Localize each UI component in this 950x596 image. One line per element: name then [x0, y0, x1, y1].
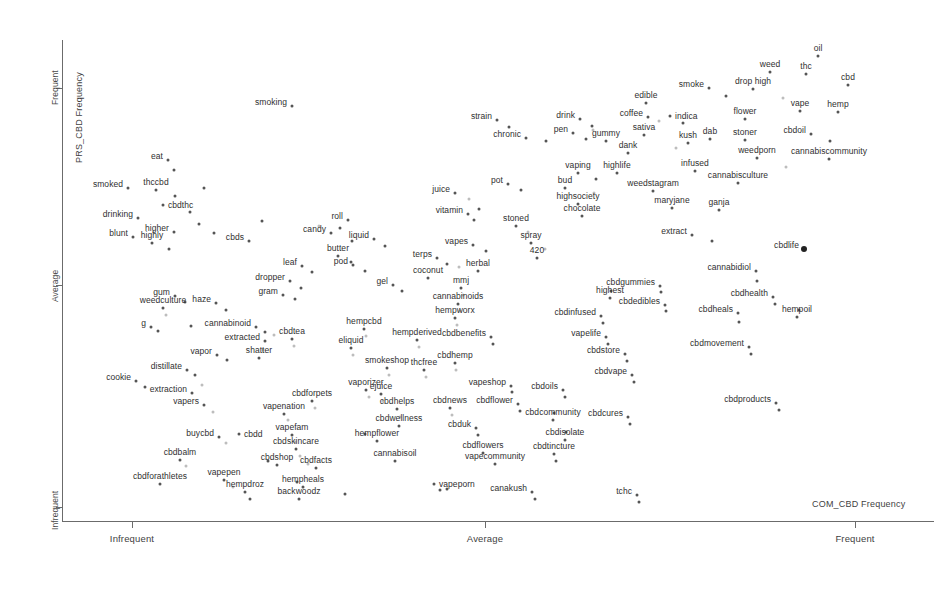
scatter-point	[774, 303, 777, 306]
scatter-point	[737, 312, 740, 315]
point-label: chronic	[493, 129, 521, 139]
point-label: highest	[596, 285, 624, 295]
point-label: hempheals	[282, 474, 324, 484]
point-label: cbdflowers	[462, 440, 503, 450]
scatter-point	[510, 385, 513, 388]
scatter-point	[173, 169, 176, 172]
scatter-point	[293, 345, 296, 348]
point-label: coffee	[620, 108, 643, 118]
point-label: cbd	[841, 72, 855, 82]
scatter-point	[744, 139, 747, 142]
scatter-point	[694, 170, 697, 173]
point-label: ejuice	[370, 381, 393, 391]
point-label: bud	[558, 175, 572, 185]
scatter-point	[659, 285, 662, 288]
point-label: cbdproducts	[724, 394, 771, 404]
point-label: kush	[679, 130, 697, 140]
scatter-point	[300, 287, 303, 290]
scatter-point	[314, 407, 317, 410]
scatter-point	[425, 376, 428, 379]
scatter-point	[817, 55, 820, 58]
scatter-point	[315, 467, 318, 470]
point-label: cbdstore	[587, 345, 620, 355]
scatter-point	[388, 374, 391, 377]
scatter-point	[311, 271, 314, 274]
scatter-point	[511, 391, 514, 394]
scatter-point	[492, 343, 495, 346]
scatter-point	[216, 354, 219, 357]
scatter-point	[496, 119, 499, 122]
y-axis-line	[62, 40, 63, 522]
scatter-point	[750, 353, 753, 356]
point-label: cbds	[226, 232, 244, 242]
point-label: cbdforpets	[292, 388, 332, 398]
scatter-point	[473, 219, 476, 222]
point-label: leaf	[283, 257, 297, 267]
point-label: vitamin	[436, 205, 463, 215]
scatter-point	[255, 326, 258, 329]
point-label: indica	[675, 111, 698, 121]
point-label: cbdthc	[168, 200, 193, 210]
point-label: weedporn	[738, 145, 776, 155]
scatter-point	[664, 304, 667, 307]
scatter-point	[137, 217, 140, 220]
scatter-point	[364, 270, 367, 273]
scatter-point	[525, 137, 528, 140]
scatter-point	[458, 266, 461, 269]
scatter-point	[212, 411, 215, 414]
point-label: cbdtea	[279, 326, 305, 336]
point-label: candy	[303, 224, 326, 234]
scatter-point	[805, 73, 808, 76]
scatter-point	[829, 140, 832, 143]
scatter-point	[423, 369, 426, 372]
point-label: gel	[377, 276, 389, 286]
scatter-point	[515, 225, 518, 228]
scatter-point	[638, 501, 641, 504]
point-label: haze	[192, 294, 211, 304]
scatter-point	[150, 326, 153, 329]
x-axis-title: COM_CBD Frequency	[812, 499, 905, 509]
scatter-point	[645, 102, 648, 105]
scatter-point	[289, 280, 292, 283]
scatter-point	[454, 192, 457, 195]
scatter-point	[616, 172, 619, 175]
scatter-point	[633, 381, 636, 384]
scatter-point	[311, 400, 314, 403]
point-label: vapeshop	[469, 377, 506, 387]
point-label: flower	[734, 106, 757, 116]
scatter-point	[691, 234, 694, 237]
scatter-point	[534, 498, 537, 501]
scatter-point	[365, 389, 368, 392]
scatter-point	[144, 386, 147, 389]
point-label: cbduk	[448, 419, 471, 429]
point-label: pod	[334, 256, 348, 266]
scatter-point	[709, 138, 712, 141]
scatter-point	[258, 357, 261, 360]
scatter-point	[837, 111, 840, 114]
scatter-point	[572, 132, 575, 135]
point-label: cbdskincare	[273, 436, 319, 446]
scatter-point	[738, 321, 741, 324]
point-label: strain	[471, 111, 492, 121]
point-label: cannabisculture	[708, 170, 768, 180]
scatter-point	[368, 396, 371, 399]
scatter-point	[605, 336, 608, 339]
scatter-point	[203, 404, 206, 407]
scatter-point	[451, 414, 454, 417]
point-label: sativa	[633, 122, 656, 132]
scatter-point	[363, 328, 366, 331]
scatter-point	[627, 416, 630, 419]
point-label: weedculture	[140, 295, 186, 305]
point-label: cbdhemp	[437, 350, 472, 360]
scatter-point	[365, 335, 368, 338]
scatter-point	[396, 408, 399, 411]
scatter-point	[213, 232, 216, 235]
scatter-point	[264, 331, 267, 334]
point-label: extracted	[225, 332, 260, 342]
scatter-point	[344, 493, 347, 496]
point-label: cbdhelps	[380, 396, 414, 406]
scatter-point	[244, 491, 247, 494]
point-label: cbdnews	[433, 395, 467, 405]
scatter-point	[282, 294, 285, 297]
scatter-point	[132, 236, 135, 239]
